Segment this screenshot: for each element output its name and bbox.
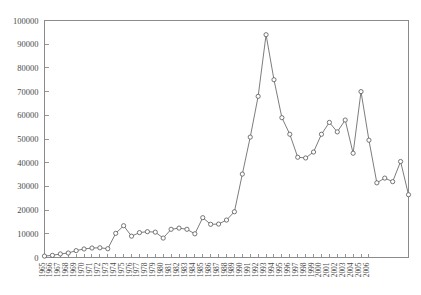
y-tick-label: 70000 — [17, 87, 38, 97]
data-point — [232, 210, 236, 214]
data-point — [327, 120, 331, 124]
data-point — [224, 218, 228, 222]
data-point — [153, 230, 157, 234]
data-point — [343, 118, 347, 122]
series-line — [45, 35, 409, 256]
data-point — [296, 155, 300, 159]
y-tick-label: 100000 — [13, 16, 39, 26]
data-point — [193, 232, 197, 236]
data-point — [406, 193, 410, 197]
y-tick-label: 60000 — [17, 110, 38, 120]
data-point — [264, 33, 268, 37]
y-axis-tick-marks — [45, 21, 49, 258]
data-point — [185, 227, 189, 231]
data-point — [90, 246, 94, 250]
y-tick-label: 80000 — [17, 63, 38, 73]
data-point — [319, 132, 323, 136]
data-point — [201, 216, 205, 220]
data-point — [256, 94, 260, 98]
data-point — [367, 138, 371, 142]
x-axis-tick-labels: 1965196619671968196919701971197219731974… — [38, 262, 371, 277]
data-point — [177, 226, 181, 230]
data-point — [359, 90, 363, 94]
y-axis-tick-labels: 0100002000030000400005000060000700008000… — [13, 16, 39, 263]
data-point — [248, 135, 252, 139]
data-point — [66, 251, 70, 255]
data-point — [272, 78, 276, 82]
data-point — [209, 222, 213, 226]
data-point — [304, 156, 308, 160]
data-point — [114, 231, 118, 235]
data-point — [240, 172, 244, 176]
data-series — [42, 33, 410, 259]
data-point — [82, 247, 86, 251]
data-point — [106, 247, 110, 251]
data-point — [398, 159, 402, 163]
y-tick-label: 10000 — [17, 229, 38, 239]
x-tick-label: 2006 — [362, 262, 371, 277]
data-point — [216, 222, 220, 226]
data-point — [98, 246, 102, 250]
data-point — [311, 150, 315, 154]
data-point — [280, 116, 284, 120]
data-point — [288, 132, 292, 136]
line-chart: 0100002000030000400005000060000700008000… — [0, 0, 421, 295]
data-point — [122, 224, 126, 228]
data-point — [129, 234, 133, 238]
data-point — [137, 231, 141, 235]
x-axis-tick-marks — [45, 254, 369, 258]
y-tick-label: 30000 — [17, 181, 38, 191]
data-point — [169, 227, 173, 231]
y-tick-label: 90000 — [17, 39, 38, 49]
y-tick-label: 20000 — [17, 205, 38, 215]
series-markers — [42, 33, 410, 259]
data-point — [58, 252, 62, 256]
data-point — [335, 130, 339, 134]
chart-container: 0100002000030000400005000060000700008000… — [0, 0, 421, 295]
data-point — [351, 151, 355, 155]
data-point — [375, 181, 379, 185]
data-point — [74, 249, 78, 253]
y-tick-label: 50000 — [17, 134, 38, 144]
data-point — [161, 236, 165, 240]
data-point — [42, 254, 46, 258]
data-point — [391, 180, 395, 184]
data-point — [50, 253, 54, 257]
data-point — [145, 230, 149, 234]
y-tick-label: 40000 — [17, 158, 38, 168]
y-tick-label: 0 — [34, 253, 38, 263]
data-point — [383, 176, 387, 180]
